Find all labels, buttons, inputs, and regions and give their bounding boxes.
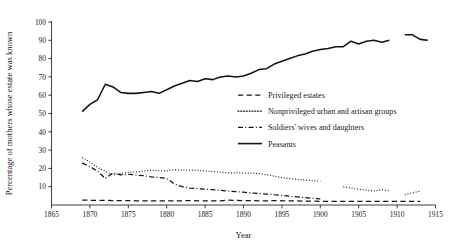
chart-canvas: 1020304050607080901001865187018751880188… <box>0 0 451 252</box>
x-tick-label: 1870 <box>83 210 98 219</box>
x-tick-label: 1895 <box>275 210 290 219</box>
y-tick-label: 30 <box>39 146 47 155</box>
y-tick-label: 40 <box>39 128 47 137</box>
series-line-2 <box>82 163 320 199</box>
legend-label-1: Nonprivileged urban and artisan groups <box>268 107 397 116</box>
y-tick-label: 50 <box>39 109 47 118</box>
y-tick-label: 60 <box>39 91 47 100</box>
y-tick-label: 80 <box>39 54 47 63</box>
series-line-3 <box>82 35 428 112</box>
x-tick-label: 1905 <box>351 210 366 219</box>
x-tick-label: 1880 <box>159 210 174 219</box>
line-chart: 1020304050607080901001865187018751880188… <box>0 0 451 252</box>
x-tick-label: 1900 <box>313 210 328 219</box>
axes: 1020304050607080901001865187018751880188… <box>35 18 443 220</box>
legend-label-2: Soldiers' wives and daughters <box>268 123 364 132</box>
series-line-0 <box>82 200 420 201</box>
x-tick-label: 1875 <box>121 210 136 219</box>
y-tick-label: 100 <box>35 18 46 27</box>
legend-label-0: Privileged estates <box>268 91 325 100</box>
y-tick-label: 20 <box>39 164 47 173</box>
y-tick-label: 90 <box>39 36 47 45</box>
x-tick-label: 1910 <box>390 210 405 219</box>
y-axis-title: Percentage of mothers whose estate was k… <box>4 31 14 195</box>
legend-label-3: Peasants <box>268 140 296 149</box>
x-tick-label: 1915 <box>428 210 443 219</box>
x-axis-title: Year <box>236 230 252 240</box>
y-tick-label: 10 <box>39 182 47 191</box>
x-tick-label: 1885 <box>198 210 213 219</box>
series-line-1 <box>82 157 420 194</box>
x-tick-label: 1865 <box>44 210 59 219</box>
chart-legend: Privileged estatesNonprivileged urban an… <box>238 91 397 149</box>
series-lines <box>82 35 428 202</box>
y-tick-label: 70 <box>39 73 47 82</box>
x-tick-label: 1890 <box>236 210 251 219</box>
